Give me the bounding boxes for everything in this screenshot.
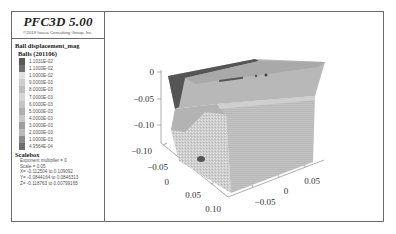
color-scale-row: 1.0000E-03 [19, 136, 104, 143]
x-tick-2: 0 [165, 177, 170, 187]
color-scale-label: 9.0000E-03 [29, 80, 53, 85]
color-swatch [19, 122, 25, 129]
color-scale-row: 5.0000E-03 [19, 108, 104, 115]
color-swatch [19, 93, 25, 100]
plot-frame: PFC3D 5.00 ©2019 Itasca Consulting Group… [11, 11, 384, 222]
legend-divider [12, 38, 104, 39]
x-tick-3: 0.05 [185, 190, 201, 200]
balls-label: Balls (201106) [18, 50, 104, 57]
color-scale-label: 4.9564E-04 [29, 144, 53, 149]
y-tick-0: −0.05 [255, 197, 276, 207]
color-scale-label: 8.0000E-03 [29, 87, 53, 92]
color-scale-row: 4.0000E-03 [19, 115, 104, 122]
x-tick-4: 0.10 [205, 204, 221, 214]
3d-scene[interactable]: 0 −0.05 −0.10 −0.10 −0.05 0 0.05 0.10 [105, 12, 384, 221]
color-swatch [19, 79, 25, 86]
color-scale-row: 9.0000E-03 [19, 79, 104, 86]
x-tick-0: −0.10 [131, 146, 152, 156]
color-scale-row: 4.9564E-04 [19, 143, 104, 150]
color-scale-label: 1.0000E-03 [29, 137, 53, 142]
color-swatch [19, 72, 25, 79]
color-scale-row: 3.0000E-03 [19, 122, 104, 129]
color-scale-label: 7.0000E-03 [29, 95, 53, 100]
color-scale-row: 1.1000E-02 [19, 65, 104, 72]
color-swatch [19, 143, 25, 150]
color-scale-row: 6.0000E-03 [19, 101, 104, 108]
front-right-face [217, 96, 315, 193]
ball-assembly [168, 59, 325, 193]
color-scale-label: 1.1031E-02 [29, 59, 53, 64]
color-scale-label: 3.0000E-03 [29, 123, 53, 128]
color-scale-label: 1.0000E-02 [29, 73, 53, 78]
color-swatch [19, 86, 25, 93]
y-tick-1: 0 [284, 186, 289, 196]
legend-panel: PFC3D 5.00 ©2019 Itasca Consulting Group… [12, 12, 105, 221]
plot-item-name: Ball displacement_mag [15, 42, 104, 49]
color-scale-row: 1.0000E-02 [19, 72, 104, 79]
z-tick-0: 0 [150, 67, 155, 77]
color-scale: 1.1031E-021.1000E-021.0000E-029.0000E-03… [19, 58, 104, 150]
z-tick-2: −0.10 [133, 120, 154, 130]
color-scale-row: 8.0000E-03 [19, 86, 104, 93]
color-scale-label: 4.0000E-03 [29, 116, 53, 121]
y-tick-2: 0.05 [304, 176, 320, 186]
color-swatch [19, 129, 25, 136]
color-swatch [19, 136, 25, 143]
color-scale-row: 7.0000E-03 [19, 93, 104, 100]
app-title: PFC3D 5.00 [12, 14, 104, 30]
color-scale-row: 1.1031E-02 [19, 58, 104, 65]
color-scale-label: 5.0000E-03 [29, 109, 53, 114]
3d-viewport[interactable]: 0 −0.05 −0.10 −0.10 −0.05 0 0.05 0.10 [105, 12, 383, 221]
color-scale-row: 2.0000E-03 [19, 129, 104, 136]
color-swatch [19, 115, 25, 122]
color-scale-label: 1.1000E-02 [29, 66, 53, 71]
color-scale-label: 6.0000E-03 [29, 102, 53, 107]
color-swatch [19, 101, 25, 108]
scalebox-z-range: Z= -0.118763 to 0.00799165 [20, 181, 104, 187]
color-swatch [19, 108, 25, 115]
x-tick-1: −0.05 [147, 162, 168, 172]
z-axis: 0 −0.05 −0.10 [133, 67, 161, 143]
copyright-text: ©2019 Itasca Consulting Group, Inc. [12, 30, 104, 35]
z-tick-1: −0.05 [133, 94, 154, 104]
color-scale-label: 2.0000E-03 [29, 130, 53, 135]
scalebox-title: Scalebox [15, 151, 104, 158]
color-swatch [19, 65, 25, 72]
color-swatch [19, 58, 25, 65]
